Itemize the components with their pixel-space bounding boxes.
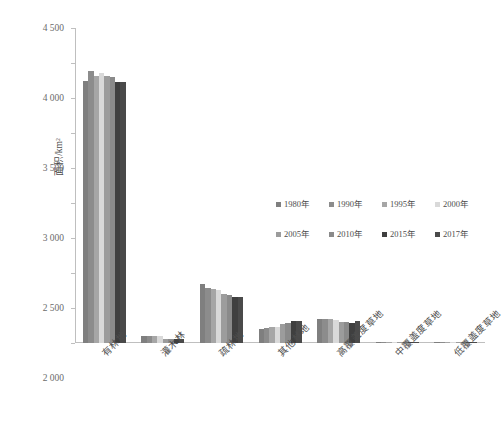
y-axis-title: 面积/km²: [51, 112, 65, 202]
legend-item[interactable]: 1990年: [329, 200, 382, 209]
y-axis-tick-label: 2 000: [43, 373, 64, 383]
legend-item[interactable]: 2000年: [435, 200, 488, 209]
bar-slot: [296, 28, 301, 343]
legend-swatch-icon: [382, 232, 387, 237]
bar-slot: [413, 28, 418, 343]
legend-swatch-icon: [276, 232, 281, 237]
legend-label: 1980年: [284, 200, 310, 209]
y-axis-tick-mark: 2 000: [71, 203, 75, 204]
y-axis-tick-label: 2 500: [43, 303, 64, 313]
legend-label: 2015年: [390, 230, 416, 239]
y-axis-tick-mark: 1 000: [71, 273, 75, 274]
y-axis-tick-mark: 2 500: [71, 168, 75, 169]
bar-group: [141, 28, 184, 343]
legend-swatch-icon: [329, 232, 334, 237]
y-axis-tick-mark: 4 000: [71, 63, 75, 64]
y-axis-tick-label: 4 000: [43, 93, 64, 103]
bar-slot: [472, 28, 477, 343]
bar-group: [259, 28, 302, 343]
bar-slot: [179, 28, 184, 343]
y-axis-tick-label: 3 500: [43, 163, 64, 173]
legend-row: 1980年1990年1995年2000年: [276, 200, 488, 230]
legend-item[interactable]: 2010年: [329, 230, 382, 239]
legend-swatch-icon: [382, 202, 387, 207]
y-axis-tick-mark: 4 500: [71, 28, 75, 29]
y-axis-tick-mark: 0: [71, 343, 75, 344]
bar-group: [83, 28, 126, 343]
bar-group: [200, 28, 243, 343]
y-axis-tick-mark: 1 500: [71, 238, 75, 239]
legend-swatch-icon: [435, 232, 440, 237]
legend: 1980年1990年1995年2000年 2005年2010年2015年2017…: [276, 200, 488, 260]
bar[interactable]: [120, 82, 125, 343]
legend-label: 2000年: [443, 200, 469, 209]
bar-slot: [355, 28, 360, 343]
bar-chart: 面积/km² 05001 0001 5002 0002 5003 0003 50…: [0, 0, 503, 421]
bar-group: [376, 28, 419, 343]
bar-group: [317, 28, 360, 343]
y-axis-tick-mark: 3 000: [71, 133, 75, 134]
legend-item[interactable]: 2017年: [435, 230, 488, 239]
y-axis-tick-mark: 500: [71, 308, 75, 309]
legend-item[interactable]: 1980年: [276, 200, 329, 209]
legend-label: 1995年: [390, 200, 416, 209]
legend-item[interactable]: 2005年: [276, 230, 329, 239]
legend-label: 2005年: [284, 230, 310, 239]
bar-slot: [120, 28, 125, 343]
y-axis-line: [75, 28, 76, 343]
legend-row: 2005年2010年2015年2017年: [276, 230, 488, 260]
legend-label: 1990年: [337, 200, 363, 209]
y-axis-tick-label: 4 500: [43, 23, 64, 33]
y-axis-tick-mark: 3 500: [71, 98, 75, 99]
legend-swatch-icon: [276, 202, 281, 207]
legend-swatch-icon: [435, 202, 440, 207]
y-axis-tick-label: 3 000: [43, 233, 64, 243]
legend-swatch-icon: [329, 202, 334, 207]
legend-label: 2010年: [337, 230, 363, 239]
bar-group: [434, 28, 477, 343]
bar-slot: [238, 28, 243, 343]
legend-item[interactable]: 2015年: [382, 230, 435, 239]
plot-area: 05001 0001 5002 0002 5003 0003 5004 0004…: [75, 28, 485, 343]
legend-label: 2017年: [443, 230, 469, 239]
legend-item[interactable]: 1995年: [382, 200, 435, 209]
